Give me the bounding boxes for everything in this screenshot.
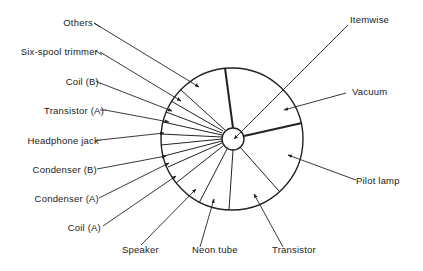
spoke-thick-top — [225, 68, 233, 128]
thin-spokes — [161, 90, 279, 210]
label-coil-b: Coil (B) — [66, 76, 99, 87]
label-vacuum: Vacuum — [352, 86, 387, 97]
label-pilot-lamp: Pilot lamp — [356, 175, 400, 186]
label-coil-a: Coil (A) — [68, 222, 101, 233]
label-others: Others — [63, 17, 93, 28]
label-transistor: Transistor — [272, 244, 316, 255]
label-headphone-jack: Headphone jack — [28, 135, 99, 146]
label-condenser-b: Condenser (B) — [33, 164, 97, 175]
label-neon-tube: Neon tube — [192, 244, 238, 255]
label-transistor-a: Transistor (A) — [44, 105, 104, 116]
inner-circle — [222, 128, 244, 150]
label-itemwise: Itemwise — [350, 14, 389, 25]
spoke-thick-right — [244, 123, 302, 136]
label-speaker: Speaker — [122, 244, 159, 255]
label-condenser-a: Condenser (A) — [35, 193, 99, 204]
label-six-spool-trimmer: Six-spool trimmer — [21, 46, 98, 57]
